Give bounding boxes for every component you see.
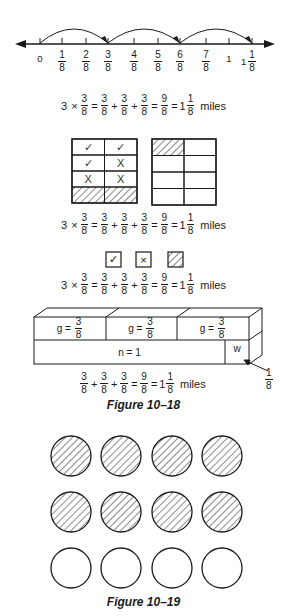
shaded-circle [51, 492, 91, 532]
jump-arc [180, 29, 252, 43]
check-icon: ✓ [105, 139, 138, 155]
equation-1: 3× 38 = 38 + 38 + 38 = 98 = 118 miles [0, 94, 287, 117]
tick-label: 1 [219, 53, 239, 64]
grid-cell [152, 189, 184, 206]
grid-cell [184, 156, 216, 173]
shaded-circle [101, 436, 141, 476]
shaded-circle [152, 492, 192, 532]
grid-cell [72, 187, 105, 203]
shaded-circle [101, 492, 141, 532]
tick-label: 118 [239, 50, 259, 73]
jump-arrow-icon [245, 36, 252, 43]
circle-array [51, 436, 242, 588]
grid-cell [184, 189, 216, 206]
jump-arc [108, 29, 180, 43]
grid-right [152, 139, 216, 205]
empty-circle [202, 548, 242, 588]
tick-label: 38 [98, 50, 118, 73]
tick-label: 28 [76, 50, 96, 73]
jump-arrow-icon [173, 36, 180, 43]
check-icon: ✓ [72, 155, 105, 171]
check-icon: ✓ [72, 139, 105, 155]
equation-4: 38 + 38 + 38 = 98 = 118 miles [0, 372, 287, 395]
right-arrow-icon [264, 40, 275, 48]
empty-circle [51, 548, 91, 588]
box-cell-g-2: g = 38 [106, 317, 177, 340]
tick-label: 18 [52, 50, 72, 73]
empty-circle [152, 548, 192, 588]
grid-cell [184, 172, 216, 189]
empty-circle [101, 548, 141, 588]
cross-icon: × [136, 252, 151, 267]
cross-icon: X [105, 171, 138, 187]
pointer-fraction: 18 [264, 368, 274, 391]
grid-cell [105, 187, 138, 203]
cross-icon: X [72, 171, 105, 187]
grid-cell [152, 139, 184, 156]
legend-hatch-box [168, 252, 183, 267]
figure-caption-10-19: Figure 10–19 [0, 595, 287, 609]
figure-caption-10-18: Figure 10–18 [0, 398, 287, 412]
equation-2: 3× 38 = 38 + 38 + 38 = 98 = 118 miles [0, 213, 287, 236]
box-cell-n: n = 1 [34, 340, 225, 364]
jump-arc [40, 29, 108, 43]
tick-label: 0 [30, 53, 50, 64]
grid-cell [184, 139, 216, 156]
jump-arrow-icon [101, 36, 108, 43]
grid-cell [152, 156, 184, 173]
box-cell-w: w [225, 338, 249, 358]
tick-label: 68 [170, 50, 190, 73]
left-arrow-icon [15, 40, 26, 48]
shaded-circle [202, 436, 242, 476]
box-cell-g-1: g = 38 [34, 317, 106, 340]
shaded-circle [202, 492, 242, 532]
check-icon: ✓ [106, 252, 121, 267]
tick-label: 58 [148, 50, 168, 73]
equation-3: 3× 38 = 38 + 38 + 38 = 98 = 118 miles [0, 273, 287, 296]
tick-label: 48 [124, 50, 144, 73]
shaded-circle [51, 436, 91, 476]
box-cell-g-3: g = 38 [177, 317, 249, 340]
grid-cell [152, 172, 184, 189]
shaded-circle [152, 436, 192, 476]
number-line [15, 29, 275, 48]
tick-label: 78 [196, 50, 216, 73]
cross-icon: X [105, 155, 138, 171]
